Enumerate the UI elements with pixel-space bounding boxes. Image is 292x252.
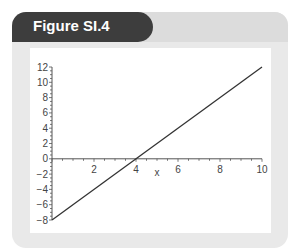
y-tick-label: 0 <box>42 153 48 164</box>
y-tick-label: 12 <box>37 62 49 73</box>
y-tick-label: −6 <box>37 199 49 210</box>
x-tick-label: 6 <box>175 164 181 175</box>
figure-title: Figure SI.4 <box>33 17 110 34</box>
y-tick-label: 10 <box>37 77 49 88</box>
y-tick-label: 2 <box>42 138 48 149</box>
y-tick-label: 8 <box>42 92 48 103</box>
x-tick-label: 10 <box>256 164 268 175</box>
y-tick-label: −4 <box>37 184 49 195</box>
x-tick-label: 8 <box>217 164 223 175</box>
x-axis-label: x <box>155 167 160 178</box>
y-tick-label: −8 <box>37 215 49 226</box>
data-line <box>52 67 262 220</box>
x-tick-label: 4 <box>133 164 139 175</box>
series-line <box>52 67 262 220</box>
y-tick-label: 4 <box>42 123 48 134</box>
x-tick-label: 2 <box>91 164 97 175</box>
y-tick-label: −2 <box>37 169 49 180</box>
y-tick-label: 6 <box>42 107 48 118</box>
line-chart: 121086420−2−4−6−8246810x <box>0 0 292 252</box>
axis-labels: 121086420−2−4−6−8246810x <box>37 62 268 226</box>
